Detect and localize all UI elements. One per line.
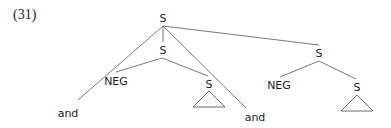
edge-root-to-s-right xyxy=(163,26,319,45)
edge-root-to-and-left xyxy=(78,26,163,100)
example-number: (31) xyxy=(13,7,37,23)
triangle-right-subtree xyxy=(341,95,373,111)
triangle-left-subtree xyxy=(193,91,225,107)
node-s-right-inner: S xyxy=(354,81,361,94)
edge-s-mid-to-neg-left xyxy=(116,58,162,72)
node-s-right: S xyxy=(316,47,323,60)
edge-s-mid-to-s-left-inner xyxy=(162,58,208,76)
node-s-left-inner: S xyxy=(206,78,213,91)
node-root-s: S xyxy=(160,12,167,25)
node-s-mid: S xyxy=(160,44,167,57)
node-and-left: and xyxy=(58,107,79,120)
edge-s-right-to-s-right-inner xyxy=(319,61,356,79)
node-and-right: and xyxy=(245,111,266,124)
syntax-tree-diagram: (31) S S NEG S and and S NEG S xyxy=(0,0,391,128)
edge-s-right-to-neg-right xyxy=(280,61,319,77)
node-neg-left: NEG xyxy=(104,75,128,88)
tree-edges xyxy=(78,26,356,108)
node-neg-right: NEG xyxy=(267,79,291,92)
